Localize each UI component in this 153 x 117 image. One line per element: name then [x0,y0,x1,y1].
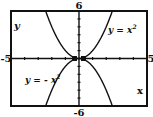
trace-marker-right [81,56,86,61]
trace-marker-left [72,56,77,61]
parabola-graph: 6 -6 -5 5 y x y = x2 y = - x2 [0,0,153,117]
xmin-label: -5 [0,53,11,64]
equation-label-neg-x-squared: y = - x2 [24,73,60,85]
y-axis-label: y [13,20,21,31]
ymax-label: 6 [76,0,83,11]
x-axis-label: x [137,85,144,96]
xmax-label: 5 [148,53,153,64]
ymin-label: -6 [73,107,84,117]
equation-label-x-squared: y = x2 [107,23,137,35]
